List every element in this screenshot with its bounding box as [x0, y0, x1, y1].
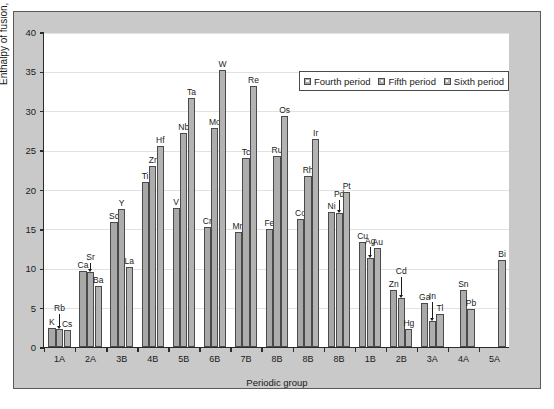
y-axis-tick — [40, 190, 44, 191]
bar-Mn — [235, 232, 242, 347]
bar-value-label: Rb — [52, 304, 68, 313]
bar-K — [48, 328, 55, 347]
label-arrow-head-icon — [88, 269, 92, 272]
x-axis-tick — [355, 348, 356, 352]
y-axis-tick-label: 30 — [14, 107, 36, 117]
bar-Tl — [436, 314, 443, 347]
bar-Ir — [312, 139, 319, 347]
label-arrow-head-icon — [430, 318, 434, 321]
bar-value-label: Y — [114, 199, 130, 208]
bar-value-label: La — [121, 257, 137, 266]
x-axis-tick — [261, 348, 262, 352]
bar-Ru — [273, 156, 280, 347]
x-axis-tick — [199, 348, 200, 352]
x-axis-tick — [137, 348, 138, 352]
label-arrow-head-icon — [368, 255, 372, 258]
bar-Ga — [421, 303, 428, 347]
bar-Au — [374, 248, 381, 347]
chart-legend: Fourth period Fifth period Sixth period — [299, 71, 509, 91]
y-axis-tick-label: 35 — [14, 67, 36, 77]
label-arrow-head-icon — [337, 210, 341, 213]
bar-Hf — [157, 146, 164, 347]
bar-V — [173, 208, 180, 347]
legend-label-sixth-period: Sixth period — [454, 76, 504, 87]
bar-value-label: Pt — [339, 182, 355, 191]
legend-item-sixth-period: Sixth period — [444, 76, 504, 87]
bar-Hg — [405, 329, 412, 347]
bar-Co — [297, 219, 304, 347]
y-axis-tick — [40, 111, 44, 112]
label-leader-line — [401, 277, 402, 295]
x-axis-title: Periodic group — [0, 377, 554, 388]
bar-value-label: Sn — [455, 280, 471, 289]
bar-value-label: Cs — [59, 320, 75, 329]
x-axis-tick — [230, 348, 231, 352]
sixth-period-swatch-icon — [444, 78, 451, 85]
y-axis-tick-label: 25 — [14, 146, 36, 156]
bar-Zr — [149, 166, 156, 347]
bar-value-label: Zn — [386, 280, 402, 289]
bar-value-label: Re — [246, 76, 262, 85]
bar-value-label: Hg — [401, 319, 417, 328]
bar-Ba — [95, 286, 102, 347]
fourth-period-swatch-icon — [304, 78, 311, 85]
bar-Re — [250, 86, 257, 347]
y-axis-tick-label: 15 — [14, 225, 36, 235]
bar-value-label: Ir — [308, 129, 324, 138]
bar-La — [126, 267, 133, 347]
bar-value-label: Bi — [494, 250, 510, 259]
bar-value-label: Sr — [83, 253, 99, 262]
bar-Zn — [390, 290, 397, 347]
legend-item-fourth-period: Fourth period — [304, 76, 371, 87]
bar-Pt — [343, 192, 350, 347]
y-axis-title: Enthalpy of fusion, kJ/mol — [0, 0, 9, 118]
x-axis-tick — [448, 348, 449, 352]
bar-Rb — [56, 329, 63, 347]
fifth-period-swatch-icon — [378, 78, 385, 85]
y-axis-tick-label: 10 — [14, 264, 36, 274]
x-axis-group-label: 5A — [474, 355, 514, 364]
y-axis-tick — [40, 72, 44, 73]
gridline — [44, 33, 509, 34]
y-axis-tick — [40, 150, 44, 151]
y-axis-tick — [40, 269, 44, 270]
bar-W — [219, 70, 226, 347]
bar-Tc — [242, 158, 249, 347]
bar-Nb — [180, 133, 187, 347]
bar-Ti — [142, 182, 149, 347]
bar-Ta — [188, 98, 195, 347]
bar-value-label: Tl — [432, 304, 448, 313]
x-axis-tick — [386, 348, 387, 352]
bar-Cu — [359, 242, 366, 347]
x-axis-tick — [168, 348, 169, 352]
bar-Pd — [336, 213, 343, 347]
bar-Sc — [110, 222, 117, 347]
y-axis-tick-label: 5 — [14, 304, 36, 314]
bar-Rh — [304, 176, 311, 347]
y-axis-tick-label: 0 — [14, 343, 36, 353]
bar-value-label: In — [424, 292, 440, 301]
bar-Bi — [498, 260, 505, 347]
bar-Cs — [64, 330, 71, 347]
bar-value-label: Ni — [324, 202, 340, 211]
bar-In — [429, 321, 436, 347]
x-axis-tick — [479, 348, 480, 352]
bar-Ni — [328, 212, 335, 347]
label-leader-line — [339, 200, 340, 210]
bar-Pb — [467, 309, 474, 347]
x-axis-tick — [293, 348, 294, 352]
x-axis-tick — [75, 348, 76, 352]
bar-value-label: W — [214, 60, 230, 69]
chart-figure: 05101520253035401AKRbCs2ACaSrBa3BScYLa4B… — [0, 0, 554, 409]
bar-Ag — [367, 258, 374, 347]
bar-value-label: Ba — [90, 276, 106, 285]
legend-label-fifth-period: Fifth period — [388, 76, 436, 87]
bar-Fe — [266, 229, 273, 347]
y-axis-tick — [40, 308, 44, 309]
x-axis-tick — [106, 348, 107, 352]
y-axis-tick-label: 40 — [14, 28, 36, 38]
bar-Cr — [204, 227, 211, 347]
bar-value-label: Os — [277, 106, 293, 115]
bar-value-label: Pb — [463, 299, 479, 308]
bar-value-label: Cd — [393, 267, 409, 276]
